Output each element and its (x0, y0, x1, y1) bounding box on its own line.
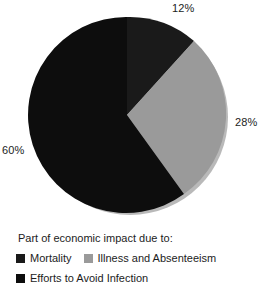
legend-item-efforts-to-avoid-infection[interactable]: Efforts to Avoid Infection (16, 272, 148, 284)
pie-chart-svg (0, 0, 258, 222)
legend-label-illness-and-absenteeism: Illness and Absenteeism (98, 252, 217, 264)
legend-swatch-icon-mortality (16, 254, 25, 263)
legend-label-mortality: Mortality (30, 252, 72, 264)
legend-swatch-icon-illness-and-absenteeism (84, 254, 93, 263)
slice-label-12-percent: 12% (172, 2, 194, 14)
legend-row: Mortality Illness and Absenteeism (16, 252, 228, 264)
pie-chart-figure: 12% 28% 60% Part of economic impact due … (0, 0, 258, 301)
chart-legend: Part of economic impact due to: Mortalit… (0, 222, 258, 301)
legend-item-mortality[interactable]: Mortality (16, 252, 72, 264)
legend-item-illness-and-absenteeism[interactable]: Illness and Absenteeism (84, 252, 217, 264)
legend-swatch-icon-efforts-to-avoid-infection (16, 274, 25, 283)
legend-row: Efforts to Avoid Infection (16, 272, 160, 284)
legend-title: Part of economic impact due to: (18, 232, 173, 245)
slice-label-60-percent: 60% (2, 144, 24, 156)
chart-plot-area: 12% 28% 60% (0, 0, 258, 222)
slice-label-28-percent: 28% (235, 116, 257, 128)
legend-label-efforts-to-avoid-infection: Efforts to Avoid Infection (30, 272, 148, 284)
